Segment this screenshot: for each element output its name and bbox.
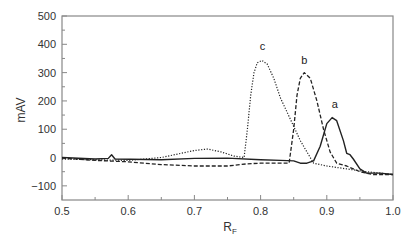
y-tick-label: −100 <box>31 180 56 192</box>
x-tick-label: 1.0 <box>385 205 400 217</box>
x-tick-label: 0.5 <box>54 205 69 217</box>
peak-label-b: b <box>301 54 307 66</box>
y-tick-label: 300 <box>38 67 56 79</box>
y-tick-label: 400 <box>38 38 56 50</box>
x-axis: 0.50.60.70.80.91.0 <box>54 195 400 217</box>
x-tick-label: 0.8 <box>253 205 268 217</box>
data-series <box>62 60 393 174</box>
y-axis-title: mAV <box>14 97 28 122</box>
x-tick-label: 0.9 <box>319 205 334 217</box>
y-tick-label: 200 <box>38 95 56 107</box>
chromatogram-chart: 5004003002001000−100 0.50.60.70.80.91.0 … <box>0 0 417 239</box>
y-tick-label: 0 <box>50 152 56 164</box>
x-tick-label: 0.7 <box>187 205 202 217</box>
y-tick-label: 100 <box>38 123 56 135</box>
plot-frame <box>62 16 393 200</box>
x-axis-title: RF <box>223 220 237 236</box>
series-c-line <box>62 60 393 174</box>
peak-label-c: c <box>260 40 266 52</box>
peak-label-a: a <box>332 98 339 110</box>
x-tick-label: 0.6 <box>121 205 136 217</box>
series-b-line <box>62 73 393 175</box>
y-tick-label: 500 <box>38 10 56 22</box>
